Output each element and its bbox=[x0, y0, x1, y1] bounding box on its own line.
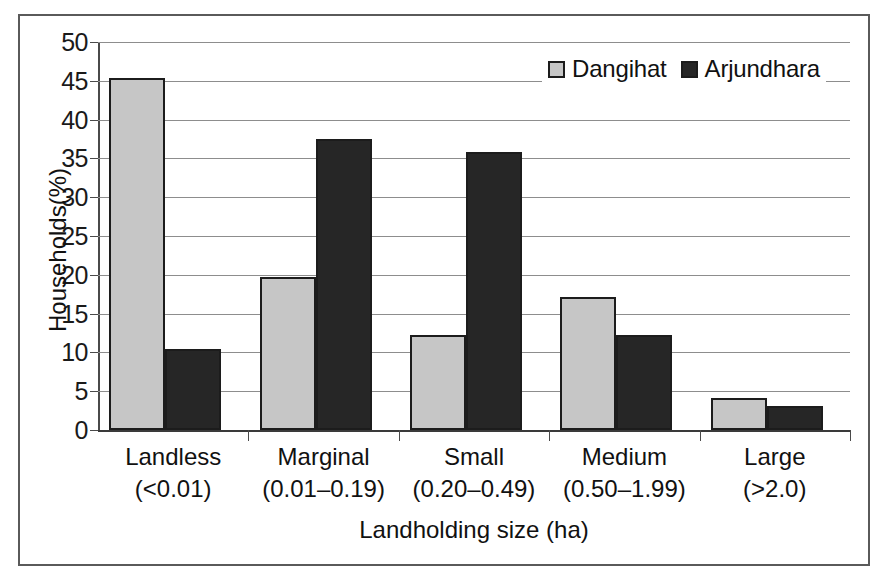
x-axis-tick-mark bbox=[700, 430, 701, 441]
bar-arjundhara-medium bbox=[616, 335, 672, 430]
bar-dangihat-small bbox=[410, 335, 466, 430]
legend-entry-dangihat: Dangihat bbox=[548, 55, 666, 83]
gridline bbox=[98, 430, 850, 432]
x-axis-tick-labels: Landless(<0.01)Marginal(0.01–0.19)Small(… bbox=[98, 441, 850, 519]
y-axis-tick-label: 0 bbox=[75, 416, 88, 445]
y-axis-tick-label: 50 bbox=[61, 28, 88, 57]
bar-dangihat-large bbox=[711, 398, 767, 430]
x-axis-label-large: Large(>2.0) bbox=[700, 441, 850, 504]
legend-label-arjundhara: Arjundhara bbox=[705, 55, 820, 83]
bar-group bbox=[549, 42, 699, 430]
bar-group bbox=[399, 42, 549, 430]
bar-arjundhara-marginal bbox=[316, 139, 372, 430]
legend-entry-arjundhara: Arjundhara bbox=[681, 55, 820, 83]
x-axis-label-range: (0.50–1.99) bbox=[549, 473, 699, 505]
x-axis-label-name: Large bbox=[700, 441, 850, 473]
y-axis-tick-label: 5 bbox=[75, 377, 88, 406]
x-axis-label-name: Landless bbox=[98, 441, 248, 473]
bar-dangihat-medium bbox=[560, 297, 616, 430]
x-axis-tick-mark bbox=[850, 430, 851, 441]
x-axis-label-range: (0.01–0.19) bbox=[248, 473, 398, 505]
x-axis-label-medium: Medium(0.50–1.99) bbox=[549, 441, 699, 504]
legend-swatch-dangihat-icon bbox=[548, 61, 565, 78]
y-axis-tick-label: 45 bbox=[61, 66, 88, 95]
bar-dangihat-marginal bbox=[260, 277, 316, 430]
chart-figure: 50454035302520151050 Households(%) Dangi… bbox=[0, 0, 888, 582]
legend-label-dangihat: Dangihat bbox=[572, 55, 666, 83]
x-axis-label-name: Medium bbox=[549, 441, 699, 473]
bar-arjundhara-landless bbox=[165, 349, 221, 430]
y-axis-title: Households(%) bbox=[44, 100, 72, 400]
x-axis-tick-mark bbox=[399, 430, 400, 441]
x-axis-tick-mark bbox=[549, 430, 550, 441]
x-axis-label-small: Small(0.20–0.49) bbox=[399, 441, 549, 504]
bar-group bbox=[98, 42, 248, 430]
x-axis-tick-mark bbox=[248, 430, 249, 441]
x-axis-label-range: (0.20–0.49) bbox=[399, 473, 549, 505]
bar-group bbox=[248, 42, 398, 430]
x-axis-label-range: (<0.01) bbox=[98, 473, 248, 505]
x-axis-label-marginal: Marginal(0.01–0.19) bbox=[248, 441, 398, 504]
plot-area: Dangihat Arjundhara bbox=[98, 42, 850, 430]
x-axis-label-name: Marginal bbox=[248, 441, 398, 473]
x-axis-label-name: Small bbox=[399, 441, 549, 473]
bar-dangihat-landless bbox=[109, 78, 165, 430]
bar-group bbox=[700, 42, 850, 430]
legend-swatch-arjundhara-icon bbox=[681, 61, 698, 78]
bar-arjundhara-large bbox=[767, 406, 823, 430]
bar-arjundhara-small bbox=[466, 152, 522, 430]
x-axis-label-range: (>2.0) bbox=[700, 473, 850, 505]
x-axis-title: Landholding size (ha) bbox=[98, 516, 850, 544]
x-axis-label-landless: Landless(<0.01) bbox=[98, 441, 248, 504]
chart-legend: Dangihat Arjundhara bbox=[542, 53, 826, 85]
